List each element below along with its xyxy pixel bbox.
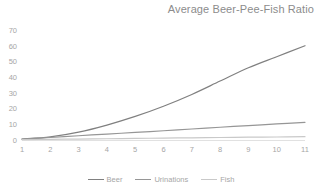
x-axis-tick-labels: 1234567891011 [20,145,309,154]
y-tick-label: 70 [9,26,17,35]
legend-item-fish[interactable]: Fish [201,175,234,184]
plot-area: 010203040506070 1234567891011 [0,0,322,190]
x-tick-label: 5 [133,145,137,154]
series-lines [22,46,305,140]
x-tick-label: 4 [105,145,109,154]
x-tick-label: 10 [273,145,281,154]
y-tick-label: 60 [9,42,17,51]
y-tick-label: 50 [9,57,17,66]
legend-label: Beer [107,175,123,184]
legend-label: Fish [220,175,234,184]
y-tick-label: 40 [9,73,17,82]
legend-swatch-icon [88,179,104,180]
chart-legend: BeerUrinationsFish [0,175,322,184]
x-tick-label: 7 [190,145,194,154]
x-tick-label: 1 [20,145,24,154]
y-axis-tick-labels: 010203040506070 [9,26,17,145]
chart-container: Average Beer-Pee-Fish Ratio 010203040506… [0,0,322,190]
x-tick-label: 8 [218,145,222,154]
y-tick-label: 20 [9,104,17,113]
legend-swatch-icon [135,179,151,180]
x-tick-label: 11 [301,145,309,154]
x-tick-label: 3 [77,145,81,154]
y-tick-label: 0 [13,136,17,145]
y-tick-label: 30 [9,89,17,98]
x-tick-label: 6 [161,145,165,154]
legend-label: Urinations [154,175,188,184]
y-tick-label: 10 [9,120,17,129]
legend-swatch-icon [201,179,217,180]
x-tick-label: 2 [48,145,52,154]
x-tick-label: 9 [246,145,250,154]
legend-item-urinations[interactable]: Urinations [135,175,188,184]
legend-item-beer[interactable]: Beer [88,175,123,184]
